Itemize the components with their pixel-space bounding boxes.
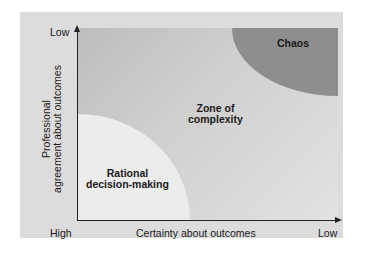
y-axis-title-line2: agreement about outcomes [52,65,63,193]
x-axis-line [77,220,337,221]
x-axis-arrow-icon [335,217,342,223]
y-axis-arrow-icon [74,25,80,32]
y-axis-top-label: Low [50,26,69,38]
y-axis-title: Professional agreement about outcomes [41,65,63,193]
rational-label-line2: decision-making [86,179,169,190]
chaos-label: Chaos [277,38,309,49]
x-axis-left-label: High [50,227,72,239]
complexity-label-line2: complexity [188,114,243,125]
y-axis-line [77,30,78,221]
complexity-label: Zone of complexity [188,103,243,125]
x-axis-title: Certainty about outcomes [136,227,256,239]
chaos-label-text: Chaos [277,38,309,49]
x-axis-right-label: Low [318,227,337,239]
rational-label: Rational decision-making [86,168,169,190]
